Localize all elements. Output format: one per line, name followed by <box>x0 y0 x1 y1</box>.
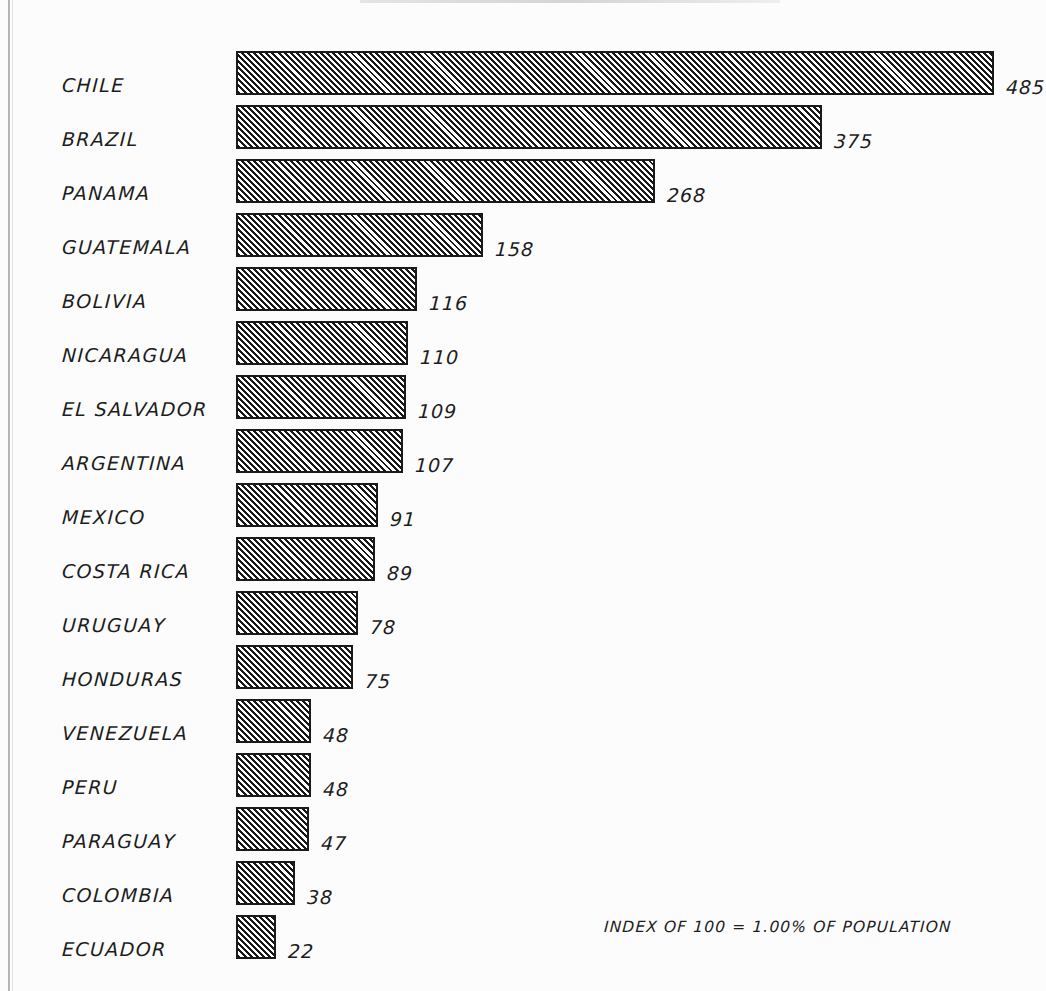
bar <box>236 861 295 905</box>
bar-container <box>236 915 276 959</box>
bar-row: HONDURAS75 <box>0 644 1020 698</box>
bar <box>236 753 311 797</box>
bar-container <box>236 807 309 851</box>
bar <box>236 699 311 743</box>
bar-value-label: 48 <box>322 778 349 800</box>
chart-footnote: INDEX OF 100 = 1.00% OF POPULATION <box>604 918 953 936</box>
bar-container <box>236 213 483 257</box>
bar-row: EL SALVADOR109 <box>0 374 1020 428</box>
bar-container <box>236 159 655 203</box>
bar <box>236 645 353 689</box>
bar-row: PERU48 <box>0 752 1020 806</box>
bar <box>236 429 403 473</box>
bar-value-label: 48 <box>322 724 349 746</box>
category-label: CHILE <box>61 74 125 96</box>
bar <box>236 537 375 581</box>
bar-row: URUGUAY78 <box>0 590 1020 644</box>
bar-value-label: 47 <box>320 832 347 854</box>
bar-row: BOLIVIA116 <box>0 266 1020 320</box>
category-label: EL SALVADOR <box>61 398 208 420</box>
bar-row: GUATEMALA158 <box>0 212 1020 266</box>
category-label: PERU <box>61 776 118 798</box>
bar-container <box>236 645 353 689</box>
bar-container <box>236 375 406 419</box>
bar-row: NICARAGUA110 <box>0 320 1020 374</box>
category-label: PARAGUAY <box>61 830 176 852</box>
bar-value-label: 22 <box>287 940 314 962</box>
bar-container <box>236 591 358 635</box>
bar-container <box>236 267 417 311</box>
bar-value-label: 268 <box>666 184 706 206</box>
bar-value-label: 38 <box>306 886 333 908</box>
bar <box>236 213 483 257</box>
bar-row: ARGENTINA107 <box>0 428 1020 482</box>
category-label: NICARAGUA <box>61 344 189 366</box>
category-label: HONDURAS <box>61 668 184 690</box>
bar <box>236 159 655 203</box>
bar-container <box>236 537 375 581</box>
bar-container <box>236 51 994 95</box>
bar-row: VENEZUELA48 <box>0 698 1020 752</box>
bar-value-label: 375 <box>833 130 873 152</box>
bar-value-label: 109 <box>417 400 457 422</box>
bar-value-label: 116 <box>428 292 468 314</box>
bar <box>236 51 994 95</box>
bar <box>236 483 378 527</box>
bar-row: PANAMA268 <box>0 158 1020 212</box>
category-label: BOLIVIA <box>61 290 148 312</box>
bar-value-label: 89 <box>386 562 413 584</box>
bar <box>236 375 406 419</box>
category-label: COSTA RICA <box>61 560 190 582</box>
category-label: COLOMBIA <box>61 884 175 906</box>
bar-container <box>236 861 295 905</box>
category-label: BRAZIL <box>61 128 139 150</box>
bar-container <box>236 429 403 473</box>
bar-row: MEXICO91 <box>0 482 1020 536</box>
bar-container <box>236 699 311 743</box>
bar-row: CHILE485 <box>0 50 1020 104</box>
bar <box>236 267 417 311</box>
bar <box>236 915 276 959</box>
bar-value-label: 485 <box>1005 76 1045 98</box>
bar-row: BRAZIL375 <box>0 104 1020 158</box>
bar-container <box>236 483 378 527</box>
category-label: VENEZUELA <box>61 722 188 744</box>
bar <box>236 807 309 851</box>
category-label: PANAMA <box>61 182 151 204</box>
bar-row: PARAGUAY47 <box>0 806 1020 860</box>
bar-value-label: 75 <box>364 670 391 692</box>
bar-row: COLOMBIA38 <box>0 860 1020 914</box>
category-label: ARGENTINA <box>61 452 186 474</box>
category-label: MEXICO <box>61 506 146 528</box>
category-label: GUATEMALA <box>61 236 192 258</box>
bar-container <box>236 753 311 797</box>
bar <box>236 105 822 149</box>
bar-value-label: 158 <box>494 238 534 260</box>
bar <box>236 321 408 365</box>
category-label: URUGUAY <box>61 614 166 636</box>
bar-row: COSTA RICA89 <box>0 536 1020 590</box>
bar-value-label: 78 <box>369 616 396 638</box>
bar-value-label: 107 <box>414 454 454 476</box>
bar-container <box>236 105 822 149</box>
bar <box>236 591 358 635</box>
category-label: ECUADOR <box>61 938 167 960</box>
bar-container <box>236 321 408 365</box>
bar-value-label: 91 <box>389 508 416 530</box>
bar-value-label: 110 <box>419 346 459 368</box>
